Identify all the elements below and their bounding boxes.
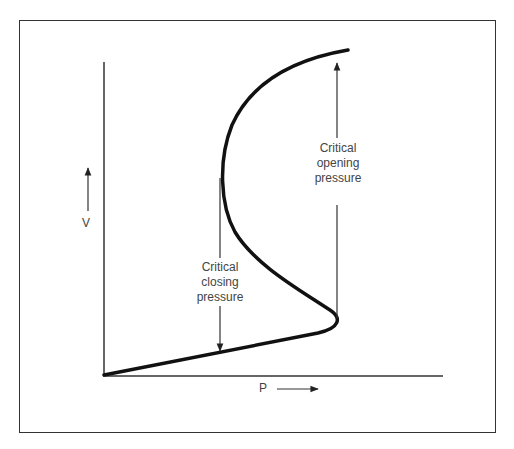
pressure-volume-curve [104,50,348,375]
closing-pressure-label: Critical closing pressure [189,260,251,305]
diagram-canvas [0,0,514,449]
y-axis-label: V [82,216,90,231]
x-axis-label: P [259,381,267,396]
opening-pressure-label: Critical opening pressure [307,141,369,186]
